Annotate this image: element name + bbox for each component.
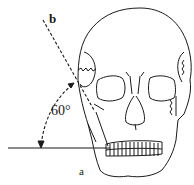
label-a: a bbox=[79, 166, 84, 177]
skull-diagram bbox=[0, 0, 194, 185]
left-suture bbox=[78, 68, 96, 71]
line-b bbox=[43, 20, 94, 110]
right-orbit bbox=[149, 76, 176, 101]
nasal-aperture bbox=[125, 96, 144, 130]
skull-outline bbox=[78, 8, 191, 177]
arrow-top-icon bbox=[68, 83, 74, 88]
left-orbit bbox=[97, 76, 126, 101]
left-zygomatic bbox=[88, 104, 108, 146]
arrow-bottom-icon bbox=[38, 141, 44, 148]
nasal-bridge bbox=[126, 72, 144, 94]
label-angle: 60° bbox=[51, 104, 71, 118]
right-suture bbox=[182, 60, 184, 75]
label-b: b bbox=[49, 12, 56, 25]
teeth bbox=[106, 141, 162, 156]
